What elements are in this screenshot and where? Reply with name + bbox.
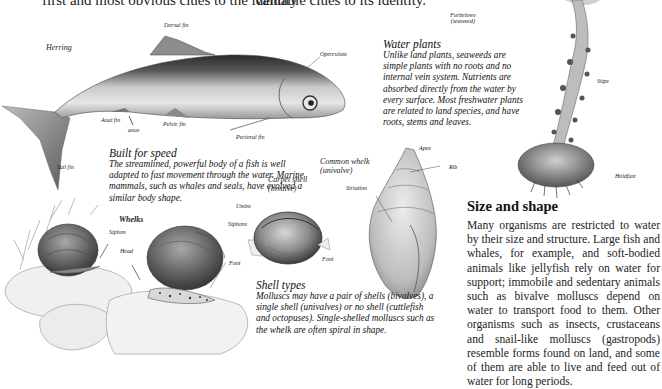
water-plants-body: Unlike land plants, seaweeds are simple … xyxy=(383,50,528,128)
size-and-shape-section: Size and shape Many organisms are restri… xyxy=(467,198,660,389)
seaweed-stipe xyxy=(552,0,588,152)
label-holdfast: Holdfast xyxy=(615,173,636,179)
rock-2 xyxy=(40,304,111,350)
shell-types-caption: Shell types Molluscs may have a pair of … xyxy=(256,279,436,336)
seaweed-holdfast xyxy=(518,143,594,187)
water-plants-title: Water plants xyxy=(383,38,528,50)
label-carpet-shell-type: (bivalve) xyxy=(268,184,307,193)
label-rib: Rib xyxy=(449,164,457,170)
label-common-whelk-type: (univalve) xyxy=(320,166,370,175)
label-anal-fin: Anal fin xyxy=(101,117,120,123)
label-pectoral-fin: Pectoral fin xyxy=(236,134,265,140)
carpet-shell-illustration xyxy=(248,212,330,264)
label-whelk-foot: Foot xyxy=(229,260,240,266)
label-pelvic-fin: Pelvic fin xyxy=(163,121,186,127)
label-apex: Apex xyxy=(419,145,431,151)
herring-tail xyxy=(2,106,70,190)
shell-types-title: Shell types xyxy=(256,279,436,291)
label-common-whelk: Common whelk (univalve) xyxy=(320,157,370,175)
label-common-whelk-name: Common whelk xyxy=(320,157,370,166)
herring-body xyxy=(55,55,345,119)
whelk-large-shell xyxy=(147,226,223,290)
label-operculum: Operculum xyxy=(320,51,347,57)
label-siphons: Siphons xyxy=(228,221,247,227)
label-furbelows: Furbelows (seaweed) xyxy=(450,12,476,24)
label-tail-fin: Tail fin xyxy=(57,164,74,170)
shell-types-body: Molluscs may have a pair of shells (biva… xyxy=(256,291,436,336)
label-stipe: Stipe xyxy=(597,78,609,84)
label-dorsal-fin: Dorsal fin xyxy=(164,22,189,28)
label-herring: Herring xyxy=(46,43,72,52)
label-siphon: Siphon xyxy=(109,229,126,235)
water-plants-caption: Water plants Unlike land plants, seaweed… xyxy=(383,38,528,128)
label-striation: Striation xyxy=(346,185,367,191)
label-anus: anus xyxy=(128,127,139,133)
label-whelks: Whelks xyxy=(119,215,143,224)
label-carpet-foot: Foot xyxy=(322,256,333,262)
label-carpet-shell-name: Carpet shell xyxy=(268,175,307,184)
size-and-shape-body: Many organisms are restricted to water b… xyxy=(467,219,660,389)
herring-dorsal-fin xyxy=(150,36,215,55)
label-carpet-shell: Carpet shell (bivalve) xyxy=(268,175,307,193)
label-head: Head xyxy=(120,248,133,254)
herring-pectoral-fin xyxy=(230,118,270,130)
size-and-shape-title: Size and shape xyxy=(467,198,660,215)
label-umbo: Umbo xyxy=(236,203,251,209)
label-furbelows-type: (seaweed) xyxy=(450,18,476,24)
common-whelk-shell-illustration xyxy=(369,148,440,298)
built-for-speed-title: Built for speed xyxy=(109,147,309,159)
